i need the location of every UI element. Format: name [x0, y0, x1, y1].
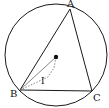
label-b: B	[10, 88, 17, 99]
center-dot	[54, 55, 58, 59]
label-c: C	[93, 92, 101, 103]
segment-b-to-center	[20, 57, 56, 90]
label-a: A	[66, 0, 75, 9]
side-ca	[70, 9, 92, 91]
side-bc	[20, 90, 92, 91]
geometry-diagram: A B C I	[0, 0, 109, 108]
side-ab	[20, 9, 70, 90]
label-i: I	[41, 76, 45, 86]
